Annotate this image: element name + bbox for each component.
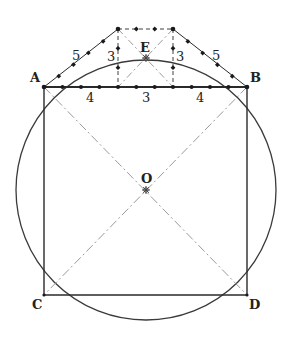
- label-vertical-left: 3: [107, 49, 115, 64]
- label-a: A: [29, 70, 41, 85]
- label-ab-middle: 3: [142, 90, 150, 105]
- point-o-marker: [142, 186, 150, 194]
- label-slant-right: 5: [212, 48, 220, 63]
- label-o: O: [141, 171, 152, 186]
- label-c: C: [32, 297, 42, 312]
- label-slant-left: 5: [72, 48, 80, 63]
- label-e: E: [140, 40, 150, 55]
- label-d: D: [249, 297, 260, 312]
- label-ab-right: 4: [196, 90, 204, 105]
- label-ab-left: 4: [86, 90, 94, 105]
- label-b: B: [250, 70, 261, 85]
- point-c-dot: [42, 293, 45, 296]
- label-vertical-right: 3: [176, 49, 184, 64]
- point-e-marker: [142, 54, 150, 62]
- geometry-diagram: A B C D E O 4 3 4 5 5 3 3: [0, 0, 290, 345]
